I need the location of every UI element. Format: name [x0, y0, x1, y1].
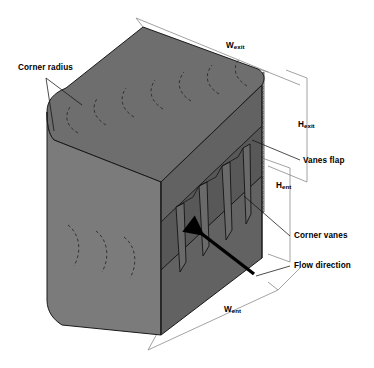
extension-went-right — [268, 282, 278, 290]
extension-went-right2 — [278, 268, 300, 290]
diagram-canvas: Corner radius Wexit Hexit Vanes flap Hen… — [0, 0, 374, 368]
extension-hent-top — [262, 158, 290, 168]
extension-topright — [268, 72, 300, 85]
label-h-ent-sub: ent — [282, 183, 291, 190]
label-corner-radius: Corner radius — [18, 64, 73, 72]
label-w-exit-base: W — [226, 41, 234, 50]
label-h-ent: Hent — [276, 182, 291, 190]
label-flow-direction: Flow direction — [294, 262, 351, 270]
label-vanes-flap: Vanes flap — [303, 157, 345, 165]
leader-flow-direction — [256, 266, 290, 276]
extension-hexit-top — [286, 70, 307, 78]
extension-hexit-bottom — [268, 166, 307, 182]
label-corner-vanes: Corner vanes — [294, 232, 348, 240]
extension-hent-bottom — [268, 254, 290, 262]
label-w-ent-sub: ent — [232, 307, 241, 314]
label-w-exit: Wexit — [226, 42, 245, 50]
label-w-exit-sub: exit — [234, 43, 245, 50]
label-h-exit: Hexit — [298, 121, 315, 129]
isometric-duct-figure — [0, 0, 374, 368]
label-w-ent: Went — [224, 306, 241, 314]
label-h-exit-sub: exit — [304, 122, 315, 129]
label-w-ent-base: W — [224, 305, 232, 314]
